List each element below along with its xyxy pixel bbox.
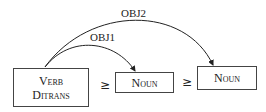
relation-geq-1: ≥ <box>100 78 110 92</box>
edge-label-obj2: OBJ2 <box>121 7 146 19</box>
node-verb-line2: Ditrans <box>32 88 70 102</box>
node-noun-1-label: Noun <box>132 76 158 90</box>
node-verb-line1: Verb <box>39 74 63 88</box>
node-noun-2: Noun <box>197 66 257 90</box>
node-verb-ditrans: Verb Ditrans <box>13 68 89 107</box>
node-noun-2-label: Noun <box>214 71 240 85</box>
node-noun-1: Noun <box>115 72 174 93</box>
edge-obj2-arc <box>45 20 213 67</box>
relation-geq-2: ≥ <box>182 75 192 89</box>
edge-label-obj1: OBJ1 <box>90 31 115 43</box>
